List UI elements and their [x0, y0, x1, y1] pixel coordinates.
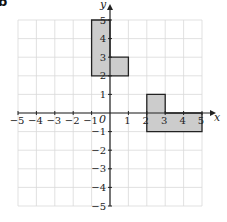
x-tick-label: −5 [10, 115, 25, 126]
y-tick-label: 3 [100, 52, 106, 63]
x-tick-label: 1 [124, 115, 130, 126]
y-tick-label: −5 [91, 201, 106, 212]
x-axis-label: x [214, 111, 221, 124]
y-tick-label: 1 [100, 89, 106, 100]
x-tick-label: 2 [143, 115, 149, 126]
x-tick-label: 4 [179, 115, 185, 126]
y-tick-label: −1 [91, 126, 106, 137]
y-axis-label: y [99, 0, 107, 11]
y-tick-label: 4 [100, 33, 106, 44]
x-tick-label: −1 [83, 115, 98, 126]
tick-labels: −5−4−3−2−11234554321−1−2−3−4−50xy [10, 0, 221, 212]
x-tick-label: 5 [198, 115, 204, 126]
x-tick-label: −4 [28, 115, 43, 126]
x-tick-label: −3 [46, 115, 61, 126]
y-tick-label: −2 [91, 145, 106, 156]
y-axis-arrow-icon [107, 4, 113, 10]
x-tick-label: −2 [65, 115, 80, 126]
y-tick-label: 5 [100, 15, 106, 26]
origin-label: 0 [99, 113, 106, 126]
y-tick-label: −3 [91, 163, 106, 174]
y-tick-label: 2 [100, 70, 106, 81]
coordinate-grid: −5−4−3−2−11234554321−1−2−3−4−50xy [0, 0, 227, 222]
x-tick-label: 3 [161, 115, 167, 126]
y-tick-label: −4 [91, 182, 106, 193]
axes [18, 4, 216, 206]
